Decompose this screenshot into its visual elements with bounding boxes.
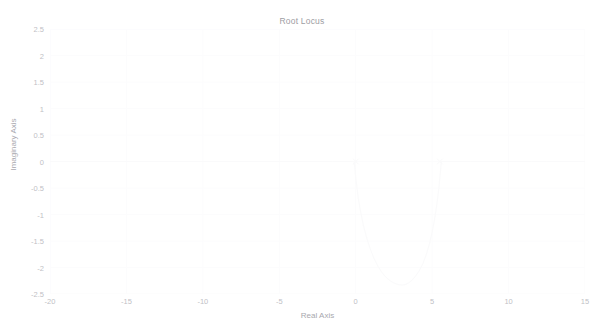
y-axis-tick-labels: 2.521.510.50-0.5-1-1.5-2-2.5 <box>0 29 44 294</box>
y-tick-label: 2.5 <box>34 25 44 34</box>
y-tick-label: 0 <box>40 157 44 166</box>
page-title: Root Locus <box>0 16 604 26</box>
x-tick-label: -10 <box>197 297 208 306</box>
x-axis-tick-labels: -20-15-10-5051015 <box>50 297 585 309</box>
x-tick-label: -5 <box>276 297 283 306</box>
y-axis-label: Imaginary Axis <box>9 85 18 205</box>
y-tick-label: 2 <box>40 51 44 60</box>
root-locus-plot <box>50 29 585 294</box>
y-tick-label: 1.5 <box>34 78 44 87</box>
locus-branch <box>402 162 442 285</box>
y-tick-label: 1 <box>40 104 44 113</box>
x-tick-label: -15 <box>121 297 132 306</box>
y-tick-label: -1.5 <box>31 237 44 246</box>
x-tick-label: -20 <box>45 297 56 306</box>
y-tick-label: -1 <box>37 210 44 219</box>
locus-branch <box>354 162 401 285</box>
locus-curves <box>50 162 585 285</box>
x-axis-label: Real Axis <box>50 311 585 320</box>
y-tick-label: 0.5 <box>34 131 44 140</box>
plot-axes-area <box>50 29 585 294</box>
x-tick-label: 10 <box>504 297 512 306</box>
root-locus-figure: Root Locus 2.521.510.50-0.5-1-1.5-2-2.5 … <box>0 0 604 329</box>
x-tick-label: 0 <box>354 297 358 306</box>
y-tick-label: -2.5 <box>31 290 44 299</box>
y-tick-label: -2 <box>37 263 44 272</box>
y-tick-label: -0.5 <box>31 184 44 193</box>
x-tick-label: 15 <box>581 297 589 306</box>
x-tick-label: 5 <box>430 297 434 306</box>
